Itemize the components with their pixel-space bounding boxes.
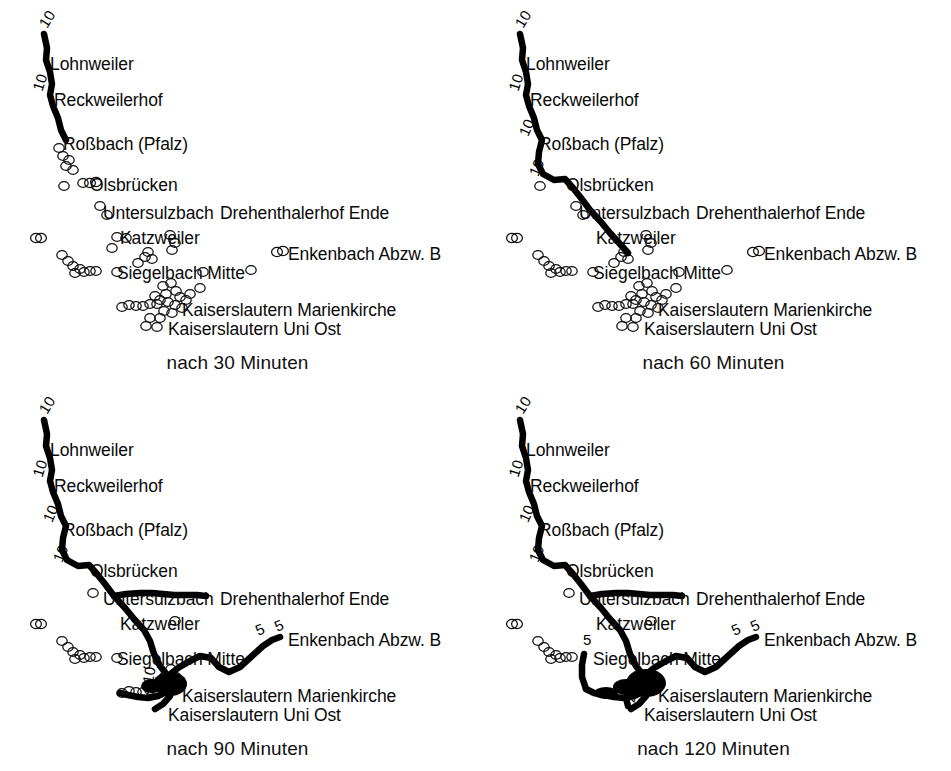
stop-label: Enkenbach Abzw. B [288, 246, 441, 264]
stop-label: Kaiserslautern Uni Ost [644, 707, 817, 725]
stop-label: Olsbrücken [566, 177, 654, 195]
stop-label: Drehenthalerhof Ende [696, 591, 865, 609]
stop-label: Untersulzbach [103, 205, 214, 223]
stop-label: Reckweilerhof [530, 478, 639, 496]
stop-label: Roßbach (Pfalz) [63, 522, 188, 540]
stop-label: Kaiserslautern Uni Ost [168, 707, 341, 725]
stop-label: Kaiserslautern Marienkirche [658, 302, 872, 320]
stop-label: Enkenbach Abzw. B [288, 632, 441, 650]
stop-label: Untersulzbach [579, 205, 690, 223]
stop-label: Siegelbach Mitte [117, 651, 245, 669]
stop-label: Siegelbach Mitte [593, 651, 721, 669]
stop-label: Olsbrücken [90, 563, 178, 581]
figure-canvas: LohnweilerReckweilerhofRoßbach (Pfalz)Ol… [0, 0, 951, 771]
stop-label: Roßbach (Pfalz) [63, 136, 188, 154]
stop-label: Lohnweiler [526, 442, 610, 460]
stop-label: Katzweiler [596, 616, 676, 634]
panel-90-caption: nach 90 Minuten [0, 738, 475, 760]
stop-label: Kaiserslautern Marienkirche [182, 688, 396, 706]
stop-label: Roßbach (Pfalz) [539, 522, 664, 540]
stop-label: Lohnweiler [50, 56, 134, 74]
panel-60-min: LohnweilerReckweilerhofRoßbach (Pfalz)Ol… [476, 0, 951, 385]
stop-label: Reckweilerhof [54, 478, 163, 496]
stop-label: Reckweilerhof [54, 92, 163, 110]
panel-60-caption: nach 60 Minuten [476, 352, 951, 374]
stop-label: Reckweilerhof [530, 92, 639, 110]
stop-label: Katzweiler [120, 230, 200, 248]
stop-label: Roßbach (Pfalz) [539, 136, 664, 154]
stop-label: Kaiserslautern Marienkirche [658, 688, 872, 706]
panel-90-min: LohnweilerReckweilerhofRoßbach (Pfalz)Ol… [0, 386, 475, 771]
stop-label: Untersulzbach [103, 591, 214, 609]
route-number-label: 10 [140, 666, 158, 685]
panel-30-caption: nach 30 Minuten [0, 352, 475, 374]
stop-label: Siegelbach Mitte [117, 265, 245, 283]
reached-route-network [44, 34, 66, 140]
stop-label: Kaiserslautern Uni Ost [168, 321, 341, 339]
stop-label: Untersulzbach [579, 591, 690, 609]
stop-label: Drehenthalerhof Ende [696, 205, 865, 223]
stop-label: Lohnweiler [50, 442, 134, 460]
stop-label: Enkenbach Abzw. B [764, 632, 917, 650]
route-number-label: 5 [583, 632, 591, 647]
stop-label: Enkenbach Abzw. B [764, 246, 917, 264]
stop-label: Drehenthalerhof Ende [220, 591, 389, 609]
stop-label: Kaiserslautern Uni Ost [644, 321, 817, 339]
stop-label: Katzweiler [120, 616, 200, 634]
stop-label: Drehenthalerhof Ende [220, 205, 389, 223]
stop-label: Lohnweiler [526, 56, 610, 74]
stop-label: Siegelbach Mitte [593, 265, 721, 283]
stop-label: Katzweiler [596, 230, 676, 248]
panel-120-caption: nach 120 Minuten [476, 738, 951, 760]
panel-30-min: LohnweilerReckweilerhofRoßbach (Pfalz)Ol… [0, 0, 475, 385]
stop-label: Olsbrücken [566, 563, 654, 581]
stop-label: Kaiserslautern Marienkirche [182, 302, 396, 320]
panel-120-min: LohnweilerReckweilerhofRoßbach (Pfalz)Ol… [476, 386, 951, 771]
stop-label: Olsbrücken [90, 177, 178, 195]
